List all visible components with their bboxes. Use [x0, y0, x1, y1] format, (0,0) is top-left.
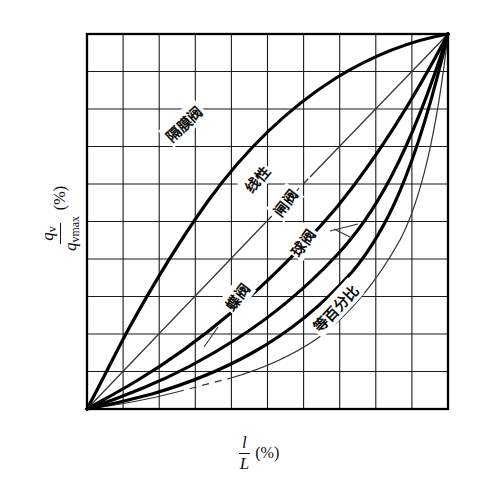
- y-axis-numerator: qv: [39, 223, 60, 243]
- x-axis-unit: (%): [255, 444, 279, 462]
- valve-flow-characteristic-figure: 隔膜阀 线性 闸阀 球阀 蝶阀 等百分比 qv qvmax (%) l L (%…: [0, 0, 481, 489]
- x-axis-fraction: l L: [237, 434, 252, 473]
- y-axis-denominator: qvmax: [61, 213, 81, 254]
- y-axis-unit: (%): [51, 186, 69, 210]
- y-axis-numerator-subscript: v: [45, 226, 59, 232]
- x-axis-label: l L (%): [198, 428, 318, 478]
- x-axis-numerator: l: [239, 434, 250, 454]
- y-axis-denominator-subscript: vmax: [67, 216, 81, 242]
- x-axis-denominator: L: [237, 454, 252, 473]
- y-axis-label: qv qvmax (%): [30, 150, 90, 290]
- y-axis-fraction: qv qvmax: [39, 213, 80, 254]
- leader-lines: [204, 224, 358, 347]
